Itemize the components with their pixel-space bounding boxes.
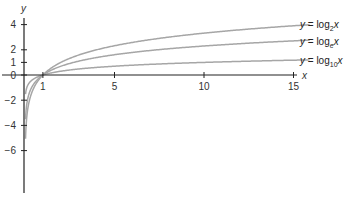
- y-tick-label: 4: [10, 19, 16, 30]
- y-tick-label: 2: [10, 44, 16, 55]
- curve-log10: [26, 60, 310, 94]
- log-functions-chart: 4210−2−4−6151015 y x y = log2xy = logexy…: [0, 0, 347, 202]
- curves: [26, 25, 310, 139]
- legend-label-loge: y = logex: [299, 36, 340, 49]
- y-axis-label: y: [20, 3, 27, 14]
- y-tick-label: −4: [5, 120, 17, 131]
- curve-loge: [26, 40, 310, 119]
- y-tick-label: 1: [10, 57, 16, 68]
- y-tick-label: −2: [5, 95, 17, 106]
- legend-label-log2: y = log2x: [299, 19, 340, 32]
- x-tick-label: 1: [40, 81, 46, 92]
- legend-label-log10: y = log10x: [299, 55, 344, 68]
- x-tick-label: 5: [112, 81, 118, 92]
- y-tick-label: 0: [10, 70, 16, 81]
- x-tick-label: 15: [288, 81, 300, 92]
- y-tick-label: −6: [5, 145, 17, 156]
- legend: y = log2xy = logexy = log10x: [299, 19, 344, 68]
- x-axis-label: x: [301, 70, 308, 81]
- x-tick-label: 10: [198, 81, 210, 92]
- axes: [2, 18, 297, 193]
